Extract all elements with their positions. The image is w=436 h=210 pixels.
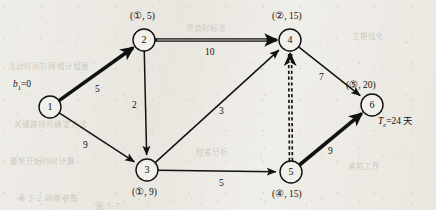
edge-weight-3-5: 5 <box>219 178 224 188</box>
node-2[interactable]: 2 <box>133 29 155 51</box>
edge-weight-2-4: 10 <box>205 47 215 57</box>
edge-5-to-4 <box>290 54 291 161</box>
node-number-3: 3 <box>145 164 150 175</box>
edge-1-to-3 <box>59 113 134 162</box>
edge-5-to-6 <box>299 114 361 165</box>
edge-weight-2-3: 2 <box>132 100 137 110</box>
node-tag-6: (⑤, 20) <box>346 79 376 90</box>
node-5[interactable]: 5 <box>280 161 302 183</box>
node-number-5: 5 <box>289 166 294 177</box>
edge-weight-5-6: 9 <box>328 146 333 156</box>
node-number-1: 1 <box>48 101 53 112</box>
edge-3-to-4 <box>155 50 279 163</box>
node-4[interactable]: 4 <box>279 29 301 51</box>
node-number-6: 6 <box>370 99 375 110</box>
edge-weight-1-2: 5 <box>95 84 100 94</box>
edge-3-to-5 <box>158 170 276 172</box>
node-tag-3: (①, 9) <box>132 186 157 197</box>
edge-2-to-3 <box>144 51 146 155</box>
figure-canvas: 活动时间与网络计划图关键路线的确定方法最早开始时间计算表 5-2 网络参数节点时… <box>0 0 436 210</box>
node-1[interactable]: 1 <box>39 96 61 118</box>
node-3[interactable]: 3 <box>136 159 158 181</box>
network-graph: 123456 <box>0 0 436 210</box>
edge-weight-4-6: 7 <box>319 72 324 82</box>
edge-layer <box>59 40 362 172</box>
source-label: b1=0 <box>13 79 31 91</box>
node-tag-5: (④, 15) <box>272 188 302 199</box>
node-number-2: 2 <box>142 34 147 45</box>
node-tag-2: (①, 5) <box>130 10 155 21</box>
node-tag-4: (②, 15) <box>272 10 302 21</box>
edge-weight-1-3: 9 <box>83 140 88 150</box>
completion-time: Te=24 天 <box>378 113 413 128</box>
edge-weight-3-4: 3 <box>219 106 224 116</box>
node-number-4: 4 <box>288 34 293 45</box>
